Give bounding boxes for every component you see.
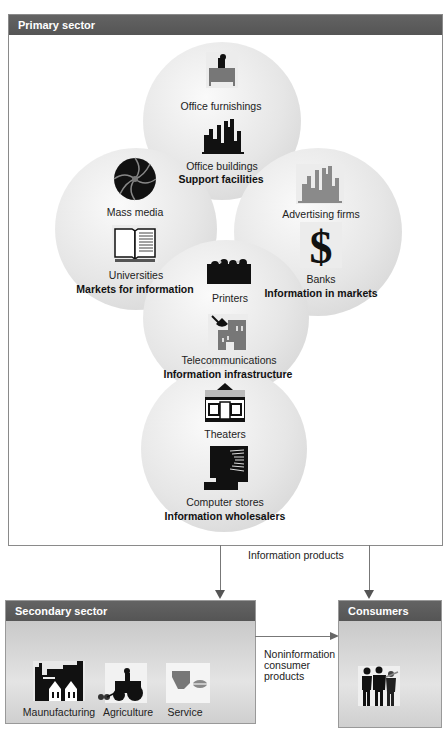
dollar-sign-icon: $ (300, 222, 342, 268)
computer-icon (204, 446, 248, 490)
label-office-buildings: Office buildings (186, 160, 258, 172)
heading-information-infrastructure: Information infrastructure (164, 368, 293, 380)
arrow-line-to-consumers (369, 545, 370, 592)
tractor-icon (97, 663, 147, 703)
arrow-head-to-consumers (364, 590, 374, 599)
noninformation-line-3: products (264, 671, 335, 682)
label-manufacturing: Maunufacturing (23, 706, 95, 718)
label-service: Service (167, 706, 202, 718)
label-office-furnishings: Office furnishings (181, 100, 262, 112)
satellite-building-icon (208, 314, 248, 350)
city-buildings-icon (202, 117, 244, 155)
label-advertising-firms: Advertising firms (282, 208, 360, 220)
open-book-icon (112, 225, 158, 263)
label-universities: Universities (109, 269, 163, 281)
label-telecommunications: Telecommunications (181, 354, 276, 366)
desk-person-icon (206, 52, 238, 88)
secondary-sector-header: Secondary sector (6, 601, 255, 621)
theater-storefront-icon (205, 382, 245, 422)
label-banks: Banks (306, 273, 335, 285)
heading-information-in-markets: Information in markets (264, 287, 377, 299)
camera-aperture-icon (113, 157, 157, 201)
consumers-header: Consumers (339, 601, 441, 621)
service-icon (166, 663, 210, 703)
label-information-products: Information products (248, 549, 344, 561)
label-agriculture: Agriculture (103, 706, 153, 718)
label-computer-stores: Computer stores (186, 496, 264, 508)
people-silhouettes-icon (358, 666, 400, 706)
arrow-line-to-secondary (220, 545, 221, 592)
svg-text:$: $ (310, 222, 333, 268)
heading-information-wholesalers: Information wholesalers (165, 510, 286, 522)
arrow-line-noninformation (255, 636, 331, 637)
arrow-head-to-secondary (215, 590, 225, 599)
consumers-panel: Consumers (338, 600, 442, 728)
label-noninformation-products: Noninformation consumer products (264, 649, 335, 682)
label-printers: Printers (212, 292, 248, 304)
heading-markets-for-information: Markets for information (76, 283, 193, 295)
factory-icon (33, 661, 85, 701)
label-mass-media: Mass media (107, 206, 164, 218)
people-row-icon (207, 258, 251, 284)
label-theaters: Theaters (204, 428, 245, 440)
primary-sector-header: Primary sector (9, 15, 442, 35)
heading-support-facilities: Support facilities (178, 173, 263, 185)
gray-buildings-icon (296, 164, 344, 204)
